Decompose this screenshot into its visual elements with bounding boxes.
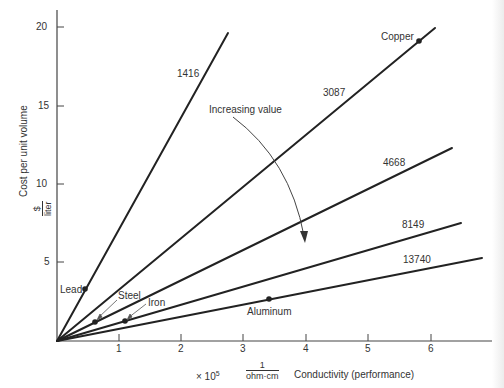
x-axis-title: Conductivity (performance) — [294, 370, 414, 380]
point-lead — [82, 286, 88, 292]
x-ticks — [119, 334, 431, 341]
x-tick-label-3: 3 — [240, 344, 246, 354]
y-units-numerator: $ — [33, 201, 43, 216]
line-label-4668: 4668 — [383, 158, 405, 168]
line-1416 — [57, 33, 228, 341]
x-axis-multiplier: × 105 — [196, 370, 220, 382]
point-aluminum — [266, 296, 272, 302]
x-tick-label-6: 6 — [428, 344, 434, 354]
line-8149 — [57, 223, 461, 341]
increasing-value-arrow — [233, 117, 304, 236]
x-tick-label-5: 5 — [365, 344, 371, 354]
label-steel: Steel — [118, 291, 141, 301]
y-tick-label-20: 20 — [36, 22, 47, 32]
label-iron: Iron — [148, 298, 165, 308]
x-tick-label-1: 1 — [116, 344, 122, 354]
x-axis-units: 1 ohm·cm — [246, 361, 279, 381]
x-tick-label-2: 2 — [178, 344, 184, 354]
line-label-13740: 13740 — [403, 255, 431, 265]
y-units-denominator: liter — [43, 201, 53, 216]
label-copper: Copper — [381, 32, 414, 42]
annotation-increasing-value: Increasing value — [209, 105, 282, 115]
x-units-denominator: ohm·cm — [246, 371, 279, 381]
label-aluminum: Aluminum — [247, 307, 291, 317]
x-multiplier-exponent: 5 — [216, 370, 220, 377]
y-tick-label-10: 10 — [36, 179, 47, 189]
x-multiplier-base: × 10 — [196, 371, 216, 382]
y-axis-title: Cost per unit volume — [18, 105, 29, 197]
line-label-3087: 3087 — [323, 88, 345, 98]
label-lead: Lead — [60, 285, 82, 295]
page-edge-shadow — [492, 0, 504, 388]
x-units-numerator: 1 — [246, 361, 279, 371]
point-iron — [122, 318, 128, 324]
y-tick-label-15: 15 — [38, 101, 49, 111]
line-label-8149: 8149 — [402, 220, 424, 230]
increasing-value-arrowhead — [300, 231, 308, 243]
y-tick-label-5: 5 — [44, 257, 50, 267]
chart-canvas — [0, 0, 504, 388]
y-ticks — [57, 27, 64, 262]
y-axis-units: $ liter — [33, 201, 53, 216]
line-label-1416: 1416 — [177, 69, 199, 79]
x-tick-label-4: 4 — [303, 344, 309, 354]
point-copper — [416, 38, 422, 44]
